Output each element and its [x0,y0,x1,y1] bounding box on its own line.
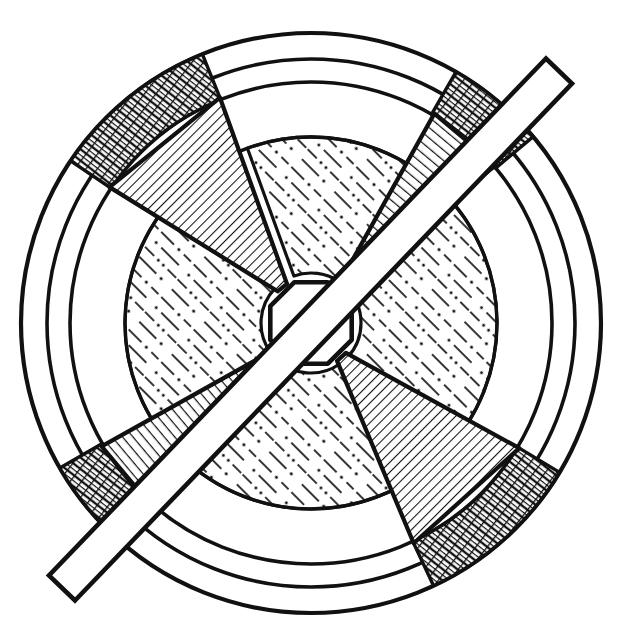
technical-drawing-figure [0,0,622,637]
wheel-section-drawing [0,0,622,637]
